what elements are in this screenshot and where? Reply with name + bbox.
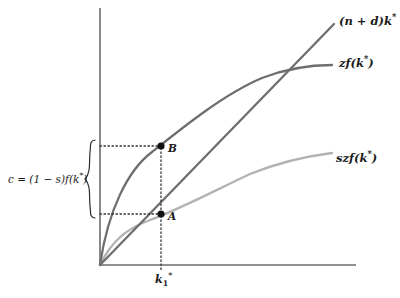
x-axis-tick-sub: 1 xyxy=(163,279,169,288)
curve-label-szf-tail: ) xyxy=(372,151,377,165)
curve-label-szf: szf(k*) xyxy=(336,150,377,164)
curve-label-zf: zf(k*) xyxy=(339,55,374,69)
curve-label-ndk-sup: * xyxy=(392,12,396,22)
solow-model-figure: (n + d)k* zf(k*) szf(k*) B A c = (1 − s)… xyxy=(0,0,400,298)
curve-label-ndk-base: (n + d)k xyxy=(339,14,392,28)
x-axis-tick-sup: * xyxy=(168,271,172,280)
plot-area xyxy=(0,0,400,298)
curve-label-zf-base: zf(k xyxy=(339,56,364,70)
consumption-text-tail: ) xyxy=(83,173,87,185)
curve-label-ndk: (n + d)k* xyxy=(339,13,396,27)
curve-zf xyxy=(100,65,332,265)
x-axis-tick-label-k1: k1* xyxy=(155,272,172,288)
curve-label-szf-base: szf(k xyxy=(336,151,367,165)
curve-label-zf-tail: ) xyxy=(368,56,373,70)
consumption-text-base: c = (1 − s)f(k xyxy=(8,173,79,185)
point-a-marker xyxy=(157,210,164,217)
point-b-marker xyxy=(157,142,164,149)
consumption-annotation: c = (1 − s)f(k*) xyxy=(8,172,87,184)
point-label-b: B xyxy=(168,143,177,154)
x-axis-tick-base: k xyxy=(155,273,163,286)
curve-ndk xyxy=(100,24,334,265)
point-label-a: A xyxy=(168,211,176,222)
